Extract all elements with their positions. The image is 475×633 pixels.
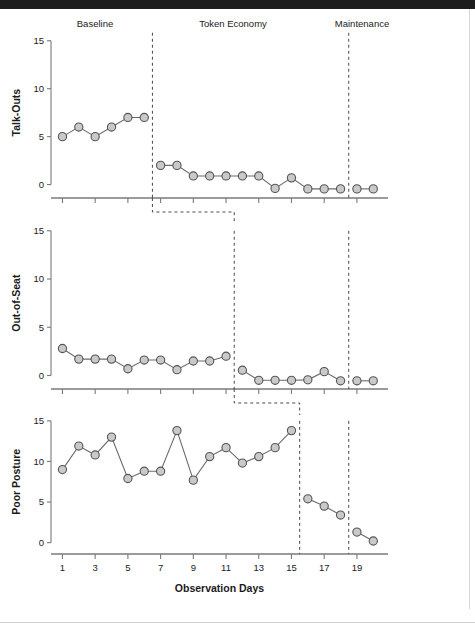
data-point — [157, 467, 165, 475]
data-point — [75, 442, 83, 450]
data-point — [255, 172, 263, 180]
data-point — [107, 123, 115, 131]
data-point — [369, 377, 377, 385]
y-tick-label: 0 — [39, 537, 44, 548]
y-tick-label: 15 — [33, 225, 44, 236]
data-point — [124, 474, 132, 482]
y-tick-label: 5 — [39, 322, 44, 333]
data-point — [271, 184, 279, 192]
x-tick-label: 3 — [93, 562, 98, 573]
data-point — [255, 452, 263, 460]
x-tick-label: 5 — [125, 562, 130, 573]
x-axis-title: Observation Days — [175, 582, 264, 594]
data-point — [91, 355, 99, 363]
data-point — [336, 185, 344, 193]
data-point — [369, 185, 377, 193]
data-point — [173, 161, 181, 169]
data-point — [58, 344, 66, 352]
y-tick-label: 10 — [33, 456, 44, 467]
figure-page: BaselineToken EconomyMaintenance051015Ta… — [0, 0, 475, 633]
data-point — [91, 451, 99, 459]
data-point — [189, 172, 197, 180]
data-point — [353, 528, 361, 536]
y-axis-title-out-of-seat: Out-of-Seat — [10, 274, 22, 332]
data-point — [222, 352, 230, 360]
y-tick-label: 0 — [39, 370, 44, 381]
y-tick-label: 5 — [39, 131, 44, 142]
data-point — [353, 377, 361, 385]
x-tick-label: 11 — [221, 562, 231, 573]
phase-label-token-economy: Token Economy — [199, 18, 267, 29]
data-point — [238, 459, 246, 467]
data-line-token-economy — [161, 165, 341, 188]
phase-step-connector-2 — [234, 389, 299, 415]
data-point — [304, 376, 312, 384]
x-tick-label: 1 — [60, 562, 65, 573]
data-point — [238, 366, 246, 374]
x-tick-label: 15 — [286, 562, 297, 573]
data-point — [157, 356, 165, 364]
data-point — [206, 357, 214, 365]
scan-page-edge-bottom — [0, 622, 475, 623]
data-point — [107, 355, 115, 363]
y-tick-label: 5 — [39, 496, 44, 507]
data-point — [124, 113, 132, 121]
data-point — [336, 377, 344, 385]
data-point — [206, 172, 214, 180]
x-tick-label: 9 — [191, 562, 196, 573]
data-point — [140, 356, 148, 364]
data-point — [369, 537, 377, 545]
data-point — [304, 185, 312, 193]
data-point — [75, 355, 83, 363]
y-tick-label: 10 — [33, 83, 44, 94]
x-tick-label: 7 — [158, 562, 163, 573]
panel-poor-posture: 051015Poor Posture135791113151719 — [10, 415, 388, 573]
data-point — [189, 476, 197, 484]
data-point — [58, 133, 66, 141]
y-axis-title-poor-posture: Poor Posture — [10, 449, 22, 515]
data-point — [320, 185, 328, 193]
data-point — [140, 467, 148, 475]
data-point — [206, 452, 214, 460]
data-point — [91, 133, 99, 141]
data-point — [320, 368, 328, 376]
y-tick-label: 15 — [33, 415, 44, 426]
data-point — [58, 465, 66, 473]
data-point — [287, 174, 295, 182]
data-point — [124, 365, 132, 373]
y-tick-label: 10 — [33, 273, 44, 284]
data-point — [173, 366, 181, 374]
data-point — [287, 427, 295, 435]
multiple-baseline-figure: BaselineToken EconomyMaintenance051015Ta… — [0, 9, 470, 609]
data-point — [222, 444, 230, 452]
data-point — [75, 123, 83, 131]
y-axis-title-talk-outs: Talk-Outs — [10, 89, 22, 137]
panel-out-of-seat: 051015Out-of-Seat — [10, 225, 388, 415]
chart-canvas: BaselineToken EconomyMaintenance051015Ta… — [0, 9, 470, 609]
x-tick-label: 19 — [352, 562, 363, 573]
phase-label-maintenance: Maintenance — [335, 18, 389, 29]
data-point — [189, 357, 197, 365]
x-tick-label: 17 — [319, 562, 330, 573]
scan-top-strip — [0, 0, 475, 9]
data-point — [271, 376, 279, 384]
data-point — [238, 172, 246, 180]
data-point — [157, 161, 165, 169]
data-point — [336, 511, 344, 519]
y-tick-label: 15 — [33, 35, 44, 46]
data-point — [287, 376, 295, 384]
y-tick-label: 0 — [39, 179, 44, 190]
phase-label-baseline: Baseline — [77, 18, 113, 29]
data-point — [173, 427, 181, 435]
data-point — [140, 113, 148, 121]
x-tick-label: 13 — [253, 562, 264, 573]
data-point — [304, 495, 312, 503]
data-point — [353, 185, 361, 193]
panel-talk-outs: 051015Talk-Outs — [10, 33, 388, 224]
data-point — [320, 502, 328, 510]
data-point — [271, 444, 279, 452]
data-point — [107, 433, 115, 441]
data-point — [222, 172, 230, 180]
data-point — [255, 376, 263, 384]
